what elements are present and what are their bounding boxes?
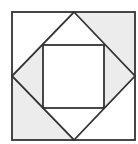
nested-squares-figure <box>0 0 138 144</box>
geometric-diagram <box>0 0 138 144</box>
inner-square <box>43 45 104 108</box>
